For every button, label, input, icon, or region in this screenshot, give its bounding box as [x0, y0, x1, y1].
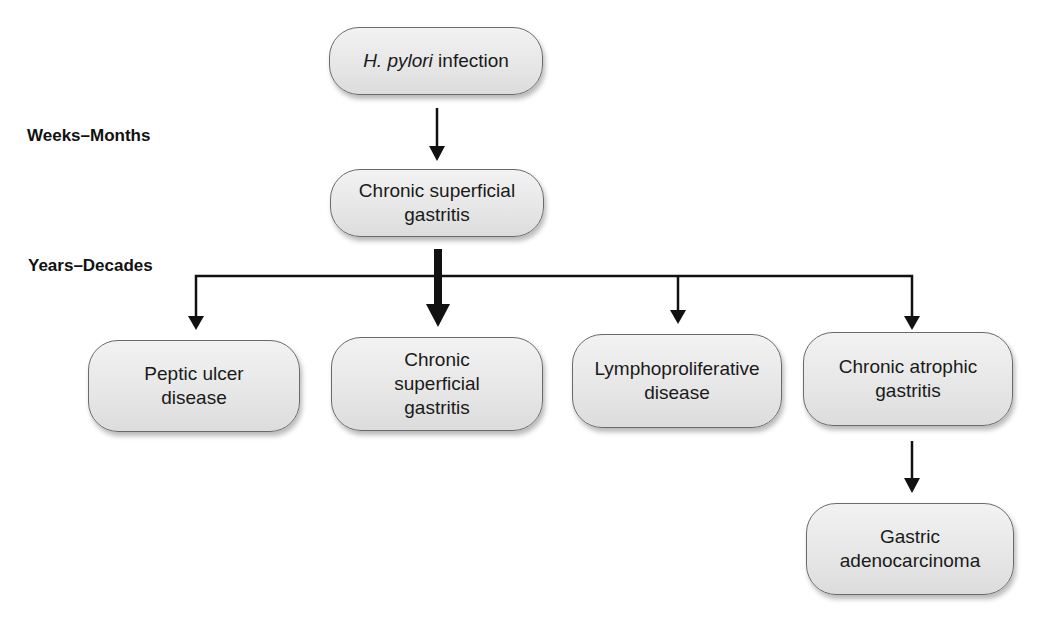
- node-gastric-adenocarcinoma: Gastric adenocarcinoma: [806, 503, 1014, 595]
- stage-label-years-decades: Years–Decades: [28, 256, 153, 276]
- node-chronic-superficial-gastritis-initial: Chronic superficial gastritis: [330, 169, 544, 237]
- node-chronic-superficial-gastritis-outcome: Chronic superficial gastritis: [331, 337, 543, 431]
- organism-name: H. pylori: [363, 50, 433, 71]
- arrowhead-icon: [426, 304, 450, 327]
- arrowhead-icon: [670, 310, 686, 324]
- node-peptic-ulcer-disease: Peptic ulcer disease: [88, 340, 300, 432]
- node-chronic-atrophic-gastritis: Chronic atrophic gastritis: [803, 332, 1013, 426]
- arrowhead-icon: [904, 316, 920, 330]
- node-lymphoproliferative-disease: Lymphoproliferative disease: [572, 334, 782, 428]
- node-h-pylori-infection: H. pylori infection: [329, 27, 543, 95]
- edge-branch-line: [196, 276, 912, 318]
- arrowhead-icon: [188, 316, 204, 330]
- arrowhead-icon: [904, 478, 920, 493]
- node-label: infection: [433, 50, 509, 71]
- stage-label-weeks-months: Weeks–Months: [27, 126, 150, 146]
- arrowhead-icon: [429, 146, 445, 161]
